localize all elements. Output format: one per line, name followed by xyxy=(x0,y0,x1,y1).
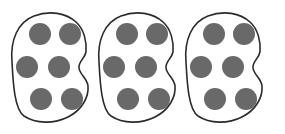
counter-dot[interactable] xyxy=(117,88,139,110)
counter-group[interactable] xyxy=(99,13,175,122)
groups-layer xyxy=(12,13,262,122)
counter-dot[interactable] xyxy=(190,56,212,78)
counter-dot[interactable] xyxy=(135,56,157,78)
counter-group[interactable] xyxy=(12,13,88,122)
counter-dot[interactable] xyxy=(146,23,168,45)
counter-dot[interactable] xyxy=(204,88,226,110)
counter-dot[interactable] xyxy=(203,23,225,45)
counter-dot[interactable] xyxy=(30,88,52,110)
groups-diagram xyxy=(0,0,285,134)
counter-group[interactable] xyxy=(186,13,262,122)
counter-dot[interactable] xyxy=(116,23,138,45)
counter-dot[interactable] xyxy=(29,23,51,45)
counter-dot[interactable] xyxy=(59,23,81,45)
counter-dot[interactable] xyxy=(61,88,83,110)
counter-dot[interactable] xyxy=(16,56,38,78)
counter-dot[interactable] xyxy=(222,56,244,78)
counter-dot[interactable] xyxy=(48,56,70,78)
diagram-canvas xyxy=(0,0,285,134)
counter-dot[interactable] xyxy=(235,88,257,110)
counter-dot[interactable] xyxy=(233,23,255,45)
counter-dot[interactable] xyxy=(103,56,125,78)
counter-dot[interactable] xyxy=(148,88,170,110)
